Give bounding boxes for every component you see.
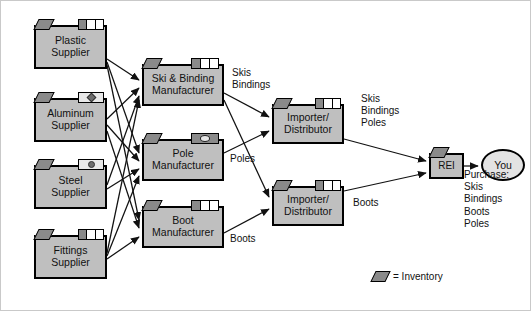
supply-chain-diagram: Plastic Supplier Aluminum Supplier Steel… — [0, 0, 531, 311]
dot-icon-steel-supplier — [78, 159, 104, 170]
node-label: Ski & Binding Manufacturer — [144, 73, 222, 97]
node-label: Importer/ Distributor — [274, 194, 342, 218]
legend-label: = Inventory — [393, 271, 443, 282]
stack-icon-ski-binding-mfr — [191, 58, 219, 69]
node-ski-binding-manufacturer[interactable]: Ski & Binding Manufacturer — [142, 64, 224, 106]
stack-icon-plastic-supplier — [78, 19, 104, 30]
edge-boot-to-importer-bottom — [224, 209, 269, 233]
edge-label-skis-bindings-poles: Skis Bindings Poles — [361, 93, 399, 130]
edge-label-skis-bindings: Skis Bindings — [232, 67, 270, 91]
node-importer-distributor-bottom[interactable]: Importer/ Distributor — [272, 186, 344, 226]
node-label: Aluminum Supplier — [36, 108, 105, 132]
stack-icon-importer-bottom — [315, 180, 341, 191]
eye-icon-pole-mfr — [191, 133, 219, 144]
edge-label-boots-manufacturer: Boots — [230, 233, 256, 245]
diamond-icon-aluminum-supplier — [78, 92, 104, 103]
node-fittings-supplier[interactable]: Fittings Supplier — [34, 235, 107, 279]
node-pole-manufacturer[interactable]: Pole Manufacturer — [142, 139, 224, 181]
node-label: Pole Manufacturer — [144, 148, 222, 172]
edge-ski-to-importer-bottom — [224, 100, 269, 197]
node-steel-supplier[interactable]: Steel Supplier — [34, 165, 107, 209]
stack-icon-boot-mfr — [191, 200, 219, 211]
node-label: REI — [436, 160, 457, 171]
node-label: Steel Supplier — [36, 175, 105, 199]
node-importer-distributor-top[interactable]: Importer/ Distributor — [272, 104, 344, 144]
node-label: Plastic Supplier — [36, 35, 105, 59]
edge-importer-top-to-rei — [344, 139, 426, 161]
inventory-icon-legend — [370, 271, 390, 282]
node-label: Importer/ Distributor — [274, 112, 342, 136]
node-label: Fittings Supplier — [36, 245, 105, 269]
stack-icon-fittings-supplier — [78, 229, 104, 240]
edge-importer-bottom-to-rei — [344, 173, 426, 191]
edge-label-poles: Poles — [230, 153, 255, 165]
stack-icon-importer-top — [315, 98, 341, 109]
edge-aluminum-to-ski — [107, 88, 139, 119]
edge-fittings-to-pole — [107, 176, 139, 256]
node-boot-manufacturer[interactable]: Boot Manufacturer — [142, 206, 224, 248]
edge-label-purchase-list: Purchase: Skis Bindings Boots Poles — [464, 169, 509, 230]
edge-label-boots-importer: Boots — [353, 197, 379, 209]
legend: = Inventory — [373, 271, 443, 282]
node-label: Boot Manufacturer — [144, 215, 222, 239]
node-plastic-supplier[interactable]: Plastic Supplier — [34, 25, 107, 69]
edge-fittings-to-boot — [107, 237, 139, 259]
node-aluminum-supplier[interactable]: Aluminum Supplier — [34, 98, 107, 142]
edge-fittings-to-ski — [107, 100, 139, 253]
edge-aluminum-to-pole — [107, 125, 139, 161]
